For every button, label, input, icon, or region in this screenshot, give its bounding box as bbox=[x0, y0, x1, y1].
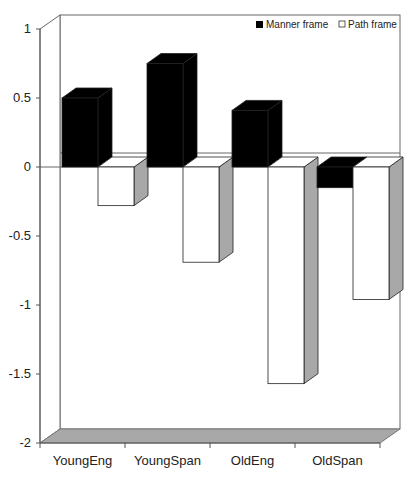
bar-side bbox=[268, 100, 282, 167]
legend: Manner frame Path frame bbox=[256, 19, 397, 30]
side-wall bbox=[40, 15, 60, 443]
bar-front bbox=[62, 98, 98, 167]
y-tick-label: 1 bbox=[24, 21, 31, 36]
x-category-label: YoungEng bbox=[53, 453, 113, 468]
bar-front bbox=[353, 167, 389, 299]
y-tick-label: 0 bbox=[24, 159, 31, 174]
bar-youngeng-manner bbox=[62, 88, 112, 167]
y-tick-label: -0.5 bbox=[9, 228, 31, 243]
bar-youngeng-path bbox=[98, 157, 148, 206]
bar-side bbox=[98, 88, 112, 167]
bar-front bbox=[317, 167, 353, 188]
bar-youngspan-manner bbox=[147, 54, 197, 168]
bar-front bbox=[232, 110, 268, 167]
bar-youngspan-path bbox=[183, 157, 233, 262]
bar-oldspan-path bbox=[353, 157, 403, 299]
y-tick-label: 0.5 bbox=[13, 90, 31, 105]
legend-label-path: Path frame bbox=[348, 19, 397, 30]
floor-plane bbox=[40, 429, 400, 443]
y-tick-label: -1.5 bbox=[9, 366, 31, 381]
bar-side bbox=[183, 54, 197, 168]
bar-front bbox=[183, 167, 219, 262]
bar-side bbox=[304, 157, 318, 384]
legend-swatch-path bbox=[339, 21, 345, 27]
y-axis: 10.50-0.5-1-1.5-2 bbox=[9, 21, 40, 450]
legend-label-manner: Manner frame bbox=[266, 19, 329, 30]
bar-side bbox=[389, 157, 403, 299]
x-axis: YoungEngYoungSpanOldEngOldSpan bbox=[40, 443, 380, 468]
chart: 10.50-0.5-1-1.5-2 YoungEngYoungSpanOldEn… bbox=[0, 0, 410, 478]
y-tick-label: -1 bbox=[19, 297, 31, 312]
y-tick-label: -2 bbox=[19, 435, 31, 450]
bar-front bbox=[147, 64, 183, 168]
x-category-label: OldSpan bbox=[312, 453, 363, 468]
x-category-label: YoungSpan bbox=[134, 453, 201, 468]
x-category-label: OldEng bbox=[231, 453, 274, 468]
bar-side bbox=[219, 157, 233, 262]
bar-front bbox=[268, 167, 304, 384]
legend-swatch-manner bbox=[256, 21, 263, 28]
bar-oldeng-manner bbox=[232, 100, 282, 167]
bar-front bbox=[98, 167, 134, 206]
bar-oldeng-path bbox=[268, 157, 318, 384]
chart-floor bbox=[40, 429, 400, 443]
